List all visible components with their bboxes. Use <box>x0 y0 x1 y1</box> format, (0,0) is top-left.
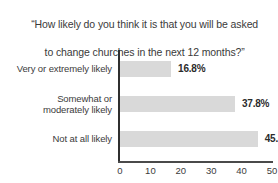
category-label: Somewhat or moderately likely <box>0 93 112 116</box>
chart-title-line-1: “How likely do you think it is that you … <box>31 18 258 30</box>
bar-row: Not at all likely 45.3% <box>0 131 278 147</box>
bar-somewhat-or-moderately-likely <box>120 96 235 112</box>
x-axis-tick-label: 10 <box>145 164 156 178</box>
x-axis-tick-label: 30 <box>206 164 217 178</box>
bar-value-label: 37.8% <box>242 96 269 112</box>
x-axis-tick-labels: 01020304050 <box>118 164 276 180</box>
bar-very-or-extremely-likely <box>120 61 171 77</box>
bar-row: Very or extremely likely 16.8% <box>0 61 278 77</box>
category-label: Not at all likely <box>0 133 112 145</box>
x-axis-tick-label: 0 <box>117 164 122 178</box>
bar-not-at-all-likely <box>120 131 258 147</box>
bar-value-label: 45.3% <box>265 131 278 147</box>
x-axis-tick-label: 20 <box>176 164 187 178</box>
x-axis-tick-label: 40 <box>236 164 247 178</box>
bar-row: Somewhat or moderately likely 37.8% <box>0 96 278 112</box>
bar-chart-figure: “How likely do you think it is that you … <box>0 0 278 183</box>
x-axis-line <box>118 161 273 163</box>
plot-area: Very or extremely likely 16.8% Somewhat … <box>0 45 278 183</box>
bar-value-label: 16.8% <box>178 61 205 77</box>
x-axis-tick-label: 50 <box>267 164 278 178</box>
category-label: Very or extremely likely <box>0 63 112 75</box>
